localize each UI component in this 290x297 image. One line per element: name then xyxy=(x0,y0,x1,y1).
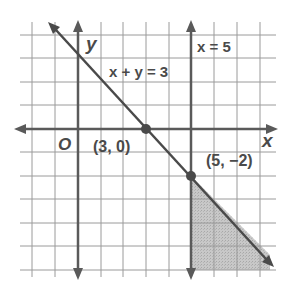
point-label-5-neg2: (5, −2) xyxy=(206,152,253,169)
line-label-x-plus-y: x + y = 3 xyxy=(109,63,168,80)
line-x-plus-y-equals-3 xyxy=(48,22,274,267)
y-axis-label: y xyxy=(85,33,98,54)
coordinate-graph: y x O x + y = 3 x = 5 (3, 0) (5, −2) xyxy=(0,0,290,297)
line-label-x-equals-5: x = 5 xyxy=(197,38,231,55)
origin-label: O xyxy=(58,135,71,154)
x-axis-label: x xyxy=(261,130,274,151)
point-label-3-0: (3, 0) xyxy=(93,138,130,155)
point-3-0 xyxy=(141,124,151,134)
point-5-neg2 xyxy=(186,171,196,181)
